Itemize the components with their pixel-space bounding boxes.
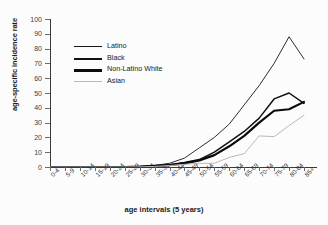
legend-item-black[interactable]: Black: [74, 53, 194, 65]
y-tick-label: 90: [0, 30, 42, 37]
y-tick-label: 50: [0, 90, 42, 97]
x-axis-title: age intervals (5 years): [0, 205, 328, 214]
y-tick-label: 30: [0, 119, 42, 126]
legend-label: Asian: [107, 76, 125, 86]
legend-item-latino[interactable]: Latino: [74, 41, 194, 53]
legend-item-asian[interactable]: Asian: [74, 76, 194, 88]
legend-label: Non-Latino White: [107, 64, 163, 74]
y-tick-label: 10: [0, 149, 42, 156]
y-tick-label: 0: [0, 164, 42, 171]
chart-figure: age-specific incidence rate 010203040506…: [0, 0, 328, 225]
series-line-black: [50, 93, 304, 167]
legend-label: Latino: [107, 41, 127, 51]
legend-line-swatch: [74, 69, 102, 72]
legend-line-swatch: [74, 58, 102, 60]
series-line-asian: [50, 115, 304, 167]
series-line-non-latino-white: [50, 102, 304, 167]
y-tick-label: 100: [0, 16, 42, 23]
y-tick-label: 60: [0, 75, 42, 82]
legend-line-swatch: [74, 46, 102, 47]
y-tick-label: 70: [0, 60, 42, 67]
y-tick-label: 20: [0, 134, 42, 141]
chart-legend: LatinoBlackNon-Latino WhiteAsian: [74, 41, 194, 87]
y-tick-label: 80: [0, 45, 42, 52]
y-tick-label: 40: [0, 104, 42, 111]
chart-title-cropped: [0, 0, 328, 10]
legend-line-swatch: [74, 81, 102, 82]
legend-label: Black: [107, 53, 125, 63]
legend-item-non-latino-white[interactable]: Non-Latino White: [74, 64, 194, 76]
